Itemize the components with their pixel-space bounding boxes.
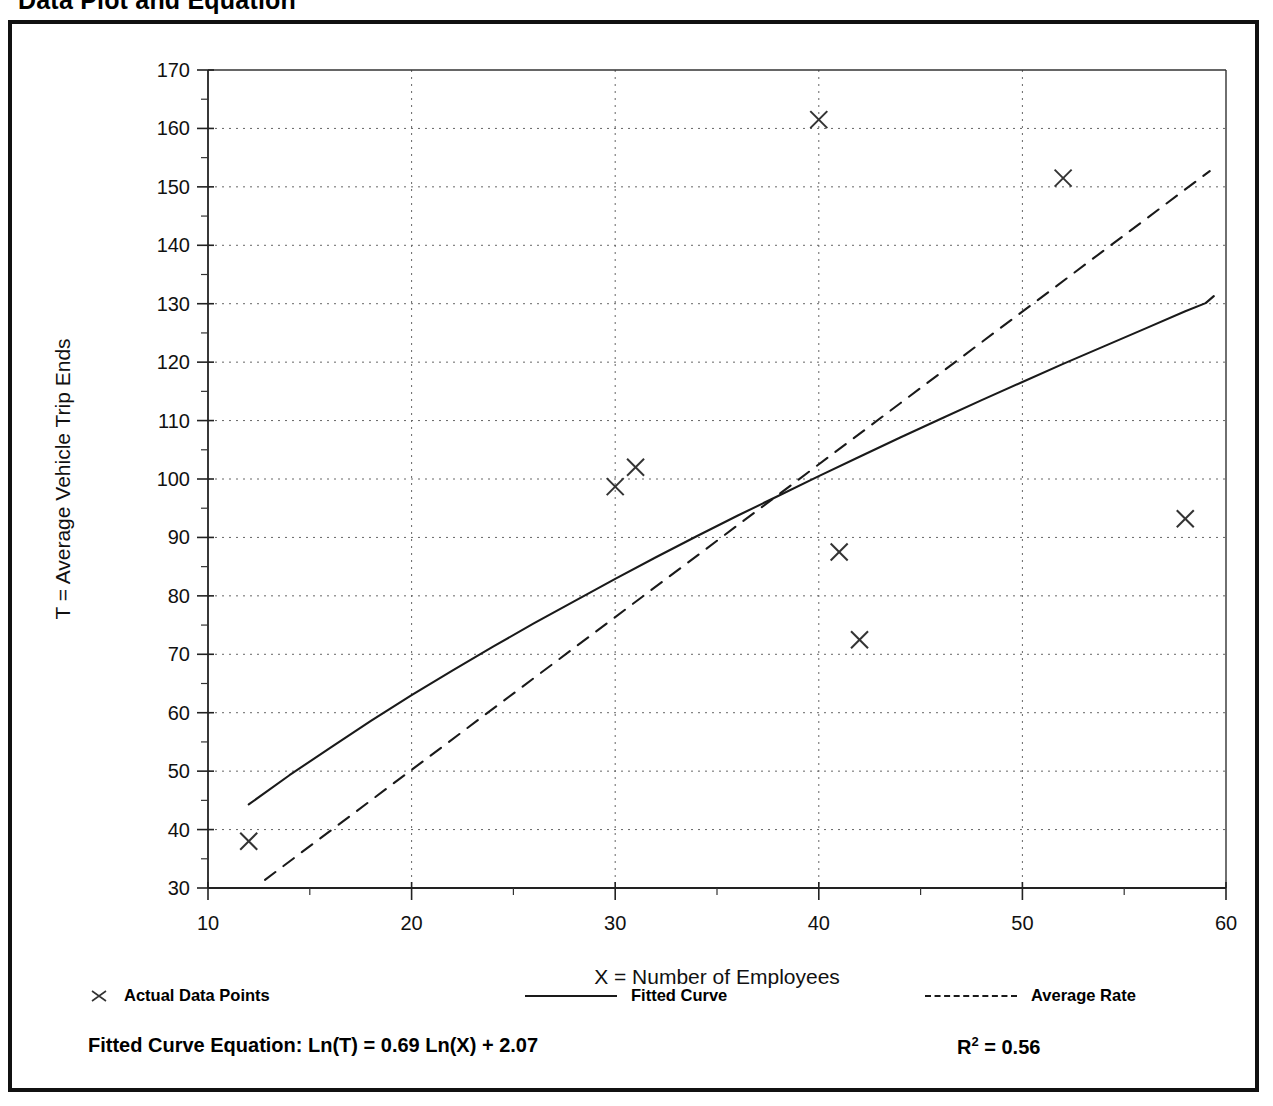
legend-item-average-rate: Average Rate <box>925 986 1136 1005</box>
average-rate-line <box>265 171 1210 880</box>
equation-row: Fitted Curve Equation: Ln(T) = 0.69 Ln(X… <box>0 1034 1273 1074</box>
svg-text:50: 50 <box>1011 912 1033 934</box>
svg-text:40: 40 <box>168 819 190 841</box>
data-point-marker <box>851 631 868 648</box>
fitted-curve-equation: Fitted Curve Equation: Ln(T) = 0.69 Ln(X… <box>88 1034 538 1057</box>
data-point-marker <box>627 459 644 476</box>
svg-text:30: 30 <box>168 877 190 899</box>
svg-text:60: 60 <box>1215 912 1237 934</box>
svg-text:50: 50 <box>168 760 190 782</box>
svg-text:170: 170 <box>157 59 190 81</box>
data-point-marker <box>240 833 257 850</box>
svg-text:130: 130 <box>157 293 190 315</box>
data-point-marker <box>607 478 624 495</box>
svg-text:40: 40 <box>808 912 830 934</box>
chart-plot-area: 3040506070809010011012013014015016017010… <box>12 24 1255 1088</box>
marker-x-icon <box>88 988 110 1004</box>
x-axis-title: X = Number of Employees <box>594 965 840 988</box>
y-axis-title: T = Average Vehicle Trip Ends <box>51 338 74 619</box>
legend-label-fitted-curve: Fitted Curve <box>631 986 727 1005</box>
svg-text:120: 120 <box>157 351 190 373</box>
data-point-marker <box>831 544 848 561</box>
legend-item-fitted-curve: Fitted Curve <box>525 986 727 1005</box>
r-squared-exponent: 2 <box>971 1034 978 1049</box>
svg-text:140: 140 <box>157 234 190 256</box>
svg-text:20: 20 <box>400 912 422 934</box>
data-series <box>240 111 1214 880</box>
axis-tick-labels: 3040506070809010011012013014015016017010… <box>157 59 1238 934</box>
legend-item-actual-data-points: Actual Data Points <box>88 986 270 1005</box>
svg-text:90: 90 <box>168 526 190 548</box>
r-squared-value: R2 = 0.56 <box>957 1034 1040 1059</box>
grid-lines <box>208 70 1226 888</box>
svg-text:160: 160 <box>157 117 190 139</box>
svg-text:110: 110 <box>158 410 190 432</box>
solid-line-icon <box>525 988 617 1004</box>
r-squared-equals-value: = 0.56 <box>979 1036 1041 1058</box>
fitted-curve-line <box>249 296 1214 804</box>
legend-label-actual-data-points: Actual Data Points <box>124 986 270 1005</box>
chart-legend: Actual Data Points Fitted Curve Average … <box>0 986 1273 1020</box>
dashed-line-icon <box>925 988 1017 1004</box>
data-point-marker <box>1055 170 1072 187</box>
axis-ticks <box>197 70 1226 900</box>
page-title: Data Plot and Equation <box>18 0 296 15</box>
svg-text:60: 60 <box>168 702 190 724</box>
svg-text:10: 10 <box>197 912 219 934</box>
r-squared-letter: R <box>957 1036 971 1058</box>
svg-text:70: 70 <box>168 643 190 665</box>
svg-text:150: 150 <box>157 176 190 198</box>
svg-text:100: 100 <box>157 468 190 490</box>
data-point-marker <box>1177 510 1194 527</box>
legend-label-average-rate: Average Rate <box>1031 986 1136 1005</box>
figure-frame: 3040506070809010011012013014015016017010… <box>8 20 1259 1092</box>
axis-lines <box>208 70 1226 888</box>
svg-text:80: 80 <box>168 585 190 607</box>
svg-text:30: 30 <box>604 912 626 934</box>
